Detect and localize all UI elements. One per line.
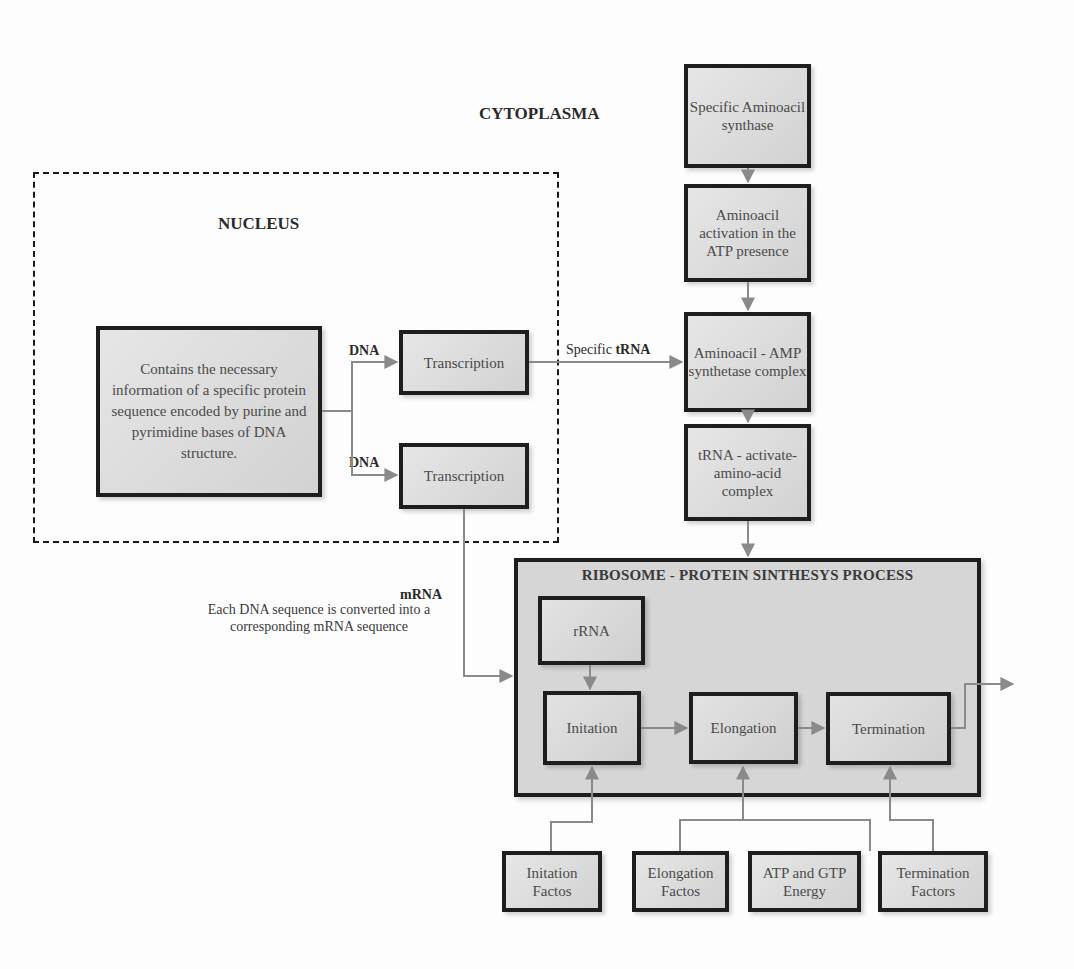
termination-factors-box: Termination Factors [878,851,988,912]
mrna-caption: Each DNA sequence is converted into a co… [192,601,446,635]
transcription-box-1: Transcription [399,330,529,395]
dna-label-2: DNA [349,455,379,471]
trna-bold: tRNA [615,342,650,357]
dna-label-1: DNA [349,343,379,359]
specific-trna-prefix: Specific [566,342,615,357]
aminoacil-activation-box: Aminoacil activation in the ATP presence [684,184,811,282]
rrna-box: rRNA [538,596,645,665]
transcription-box-2: Transcription [399,443,529,509]
trna-activated-complex-box: tRNA - activate-amino-acid complex [684,424,811,521]
protein-synthesis-diagram: CYTOPLASMA NUCLEUS Contains the necessar… [0,0,1074,969]
elongation-factors-box: Elongation Factos [632,851,729,912]
initiation-factors-box: Initation Factos [502,851,602,912]
aminoacil-amp-complex-box: Aminoacil - AMP synthetase complex [684,312,811,412]
initiation-box: Initation [543,691,641,765]
termination-box: Termination [826,692,951,765]
ribosome-title: RIBOSOME - PROTEIN SINTHESYS PROCESS [518,567,977,584]
cytoplasma-heading: CYTOPLASMA [479,104,600,124]
specific-trna-label: Specific tRNA [566,342,650,358]
aminoacil-synthase-box: Specific Aminoacil synthase [684,64,811,168]
elongation-box: Elongation [689,692,798,764]
atp-gtp-energy-box: ATP and GTP Energy [748,851,861,912]
nucleus-heading: NUCLEUS [218,214,299,234]
dna-info-box: Contains the necessary information of a … [96,326,322,497]
